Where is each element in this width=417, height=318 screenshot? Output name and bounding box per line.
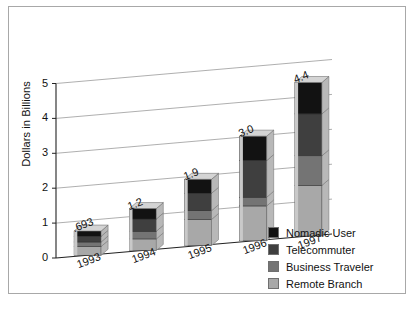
y-axis-tick-label: 4 bbox=[32, 111, 48, 123]
bar-segment[interactable] bbox=[74, 242, 101, 247]
bar-left-highlight bbox=[240, 136, 243, 241]
bar-left-highlight bbox=[185, 179, 188, 245]
y-axis-title: Dollars in Billions bbox=[20, 54, 32, 194]
y-axis-tick-label: 5 bbox=[32, 77, 48, 89]
bar-segment[interactable] bbox=[295, 156, 322, 186]
y-axis-tick-label: 1 bbox=[32, 216, 48, 228]
bar-segment[interactable] bbox=[240, 136, 267, 160]
gridline bbox=[56, 60, 332, 84]
legend-swatch-business-traveler bbox=[268, 261, 279, 272]
legend-label: Telecommuter bbox=[286, 244, 355, 256]
bar-segment[interactable] bbox=[240, 197, 267, 206]
bar-left-highlight bbox=[129, 209, 132, 251]
legend-label: Nomadic User bbox=[286, 227, 356, 239]
bar-segment[interactable] bbox=[240, 161, 267, 198]
y-axis-tick-label: 0 bbox=[32, 251, 48, 263]
legend-item[interactable]: Nomadic User bbox=[268, 224, 408, 241]
legend-swatch-remote-branch bbox=[268, 278, 279, 289]
bar-segment[interactable] bbox=[74, 236, 101, 242]
chart-page: Dollars in Billions 012345 1993199419951… bbox=[0, 0, 417, 318]
legend-label: Business Traveler bbox=[286, 261, 373, 273]
bar-segment-side-face bbox=[322, 76, 329, 113]
legend-swatch-nomadic-user bbox=[268, 227, 279, 238]
bar-segment[interactable] bbox=[295, 82, 322, 113]
bar-segment[interactable] bbox=[295, 114, 322, 156]
bar-segment[interactable] bbox=[185, 211, 212, 220]
y-axis-tick-label: 2 bbox=[32, 181, 48, 193]
legend-item[interactable]: Business Traveler bbox=[268, 258, 408, 275]
gridline bbox=[56, 94, 332, 118]
bar-left-highlight bbox=[74, 231, 77, 255]
bar-segment-side-face bbox=[322, 108, 329, 156]
bar-left-highlight bbox=[295, 82, 298, 236]
gridline bbox=[56, 129, 332, 153]
bar-segment[interactable] bbox=[129, 231, 156, 239]
bar-segment[interactable] bbox=[129, 219, 156, 231]
bar-segment[interactable] bbox=[185, 179, 212, 193]
bar-segment[interactable] bbox=[185, 193, 212, 210]
legend-swatch-telecommuter bbox=[268, 244, 279, 255]
legend-label: Remote Branch bbox=[286, 278, 362, 290]
bar-segment-side-face bbox=[267, 155, 274, 198]
legend-item[interactable]: Remote Branch bbox=[268, 275, 408, 292]
legend-item[interactable]: Telecommuter bbox=[268, 241, 408, 258]
y-axis-tick-label: 3 bbox=[32, 146, 48, 158]
chart-legend: Nomadic User Telecommuter Business Trave… bbox=[268, 224, 408, 292]
